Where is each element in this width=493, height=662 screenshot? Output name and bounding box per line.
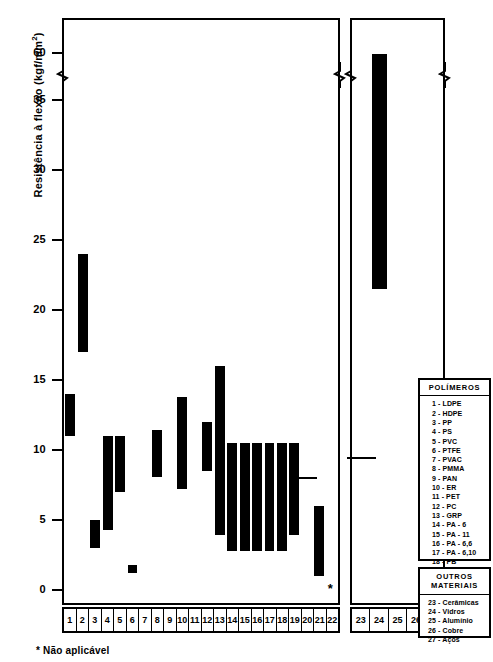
footnote: * Não aplicável [36, 645, 110, 656]
y-tick-mark-25 [52, 239, 62, 241]
category-cell-16[interactable]: 16 [252, 609, 265, 631]
polymer-legend: POLÍMEROS 1 - LDPE2 - HDPE3 - PP4 - PS5 … [418, 378, 491, 561]
y-tick-mark-5 [52, 519, 62, 521]
category-cell-14[interactable]: 14 [227, 609, 240, 631]
category-cell-18[interactable]: 18 [277, 609, 290, 631]
polymer-legend-item-1: 1 - LDPE [420, 399, 489, 408]
other-legend-item-2: 24 - Vidros [420, 607, 489, 616]
category-cell-3[interactable]: 3 [89, 609, 102, 631]
range-bar-6 [128, 565, 138, 573]
category-cell-4[interactable]: 4 [102, 609, 115, 631]
polymer-legend-item-8: 8 - PMMA [420, 464, 489, 473]
polymer-legend-item-13: 13 - GRP [420, 511, 489, 520]
range-bar-3 [90, 520, 100, 548]
category-cell-21[interactable]: 21 [314, 609, 327, 631]
main-category-axis: 12345678910111213141516171819202122 [62, 607, 340, 633]
y-axis-units-exponent: 2 [30, 36, 39, 41]
range-bar-19 [289, 443, 299, 535]
other-materials-legend-list: 23 - Cerâmicas24 - Vidros25 - Alumínio26… [420, 595, 489, 647]
y-tick-label-20: 20 [6, 303, 46, 315]
other-materials-legend-title: OUTROS MATERIAIS [420, 569, 489, 595]
category-cell-9[interactable]: 9 [164, 609, 177, 631]
range-bar-13 [215, 366, 225, 535]
category-cell-10[interactable]: 10 [177, 609, 190, 631]
range-bar-4 [103, 436, 113, 530]
y-tick-mark-35 [52, 99, 62, 101]
y-tick-mark-10 [52, 449, 62, 451]
y-tick-label-35: 35 [6, 93, 46, 105]
y-axis-units-close: ) [32, 32, 44, 36]
other-legend-item-5: 27 - Aços [420, 635, 489, 644]
y-tick-label-10: 10 [6, 443, 46, 455]
range-bar-16 [252, 443, 262, 551]
category-cell-12[interactable]: 12 [202, 609, 215, 631]
polymer-legend-item-12: 12 - PC [420, 502, 489, 511]
range-bar-1 [65, 394, 75, 436]
polymer-legend-item-11: 11 - PET [420, 492, 489, 501]
y-tick-label-0: 0 [6, 583, 46, 595]
polymer-legend-item-17: 17 - PA - 6,10 [420, 548, 489, 557]
y-tick-mark-60 [52, 52, 62, 54]
polymer-legend-title: POLÍMEROS [420, 380, 489, 396]
polymer-legend-item-3: 3 - PP [420, 418, 489, 427]
category-cell-1[interactable]: 1 [64, 609, 77, 631]
category-cell-8[interactable]: 8 [152, 609, 165, 631]
axis-break-side-right-icon [438, 62, 452, 88]
range-bar-17 [265, 443, 275, 551]
range-bar-2 [78, 254, 88, 352]
y-tick-label-60: 60 [6, 46, 46, 58]
polymer-legend-item-9: 9 - PAN [420, 474, 489, 483]
category-cell-25[interactable]: 25 [389, 609, 407, 631]
axis-break-side-left-icon [344, 62, 358, 88]
polymer-legend-item-10: 10 - ER [420, 483, 489, 492]
y-axis-title: Resistência à flexão (kgf/mm2) [30, 0, 44, 240]
y-tick-mark-0 [52, 589, 62, 591]
y-tick-mark-20 [52, 309, 62, 311]
range-bar-10 [177, 397, 187, 489]
y-tick-label-30: 30 [6, 163, 46, 175]
category-cell-23[interactable]: 23 [352, 609, 370, 631]
other-legend-item-4: 26 - Cobre [420, 626, 489, 635]
polymer-legend-item-14: 14 - PA - 6 [420, 520, 489, 529]
range-bar-8 [152, 430, 162, 476]
polymer-legend-item-15: 15 - PA - 11 [420, 530, 489, 539]
y-tick-label-15: 15 [6, 373, 46, 385]
category-cell-2[interactable]: 2 [77, 609, 90, 631]
other-legend-item-1: 23 - Cerâmicas [420, 598, 489, 607]
y-tick-mark-30 [52, 169, 62, 171]
category-cell-15[interactable]: 15 [239, 609, 252, 631]
category-cell-11[interactable]: 11 [189, 609, 202, 631]
range-bar-14 [227, 443, 237, 551]
polymer-legend-item-16: 16 - PA - 6,6 [420, 539, 489, 548]
polymer-legend-item-6: 6 - PTFE [420, 446, 489, 455]
value-dash-23 [347, 457, 376, 459]
category-cell-5[interactable]: 5 [114, 609, 127, 631]
polymer-legend-item-7: 7 - PVAC [420, 455, 489, 464]
not-applicable-asterisk-22: * [328, 582, 333, 595]
y-tick-label-5: 5 [6, 513, 46, 525]
category-cell-19[interactable]: 19 [289, 609, 302, 631]
range-bar-18 [277, 443, 287, 551]
range-bar-24 [372, 54, 387, 289]
category-cell-20[interactable]: 20 [302, 609, 315, 631]
category-cell-24[interactable]: 24 [370, 609, 388, 631]
y-tick-mark-15 [52, 379, 62, 381]
polymer-legend-item-4: 4 - PS [420, 427, 489, 436]
y-tick-label-25: 25 [6, 233, 46, 245]
polymer-legend-item-18: 18 - PB [420, 557, 489, 566]
category-cell-6[interactable]: 6 [127, 609, 140, 631]
range-bar-5 [115, 436, 125, 492]
polymer-legend-item-2: 2 - HDPE [420, 409, 489, 418]
category-cell-13[interactable]: 13 [214, 609, 227, 631]
value-dash-20 [297, 477, 317, 479]
range-bar-21 [314, 506, 324, 576]
other-materials-legend: OUTROS MATERIAIS 23 - Cerâmicas24 - Vidr… [418, 567, 491, 638]
category-cell-17[interactable]: 17 [264, 609, 277, 631]
other-legend-title-line2: MATERIAIS [420, 581, 489, 590]
range-bar-15 [240, 443, 250, 551]
category-cell-7[interactable]: 7 [139, 609, 152, 631]
other-legend-title-line1: OUTROS [420, 572, 489, 581]
polymer-legend-item-5: 5 - PVC [420, 437, 489, 446]
category-cell-22[interactable]: 22 [327, 609, 339, 631]
range-bar-12 [202, 422, 212, 471]
